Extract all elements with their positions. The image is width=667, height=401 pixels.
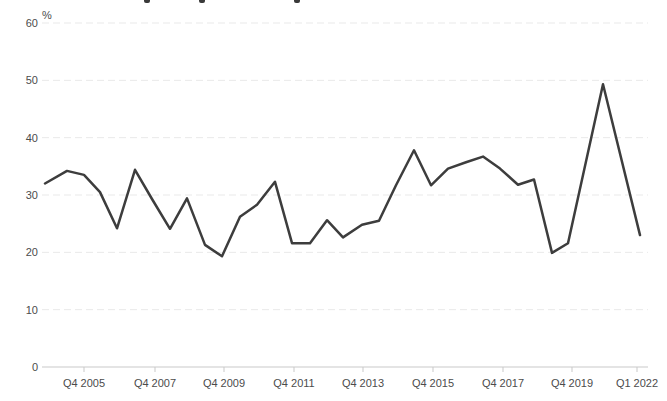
- data-series-line: [45, 84, 640, 256]
- x-axis-ticks: [84, 367, 637, 372]
- title-descender-fragment: [199, 0, 205, 3]
- y-axis-tick-label: 20: [26, 246, 38, 258]
- x-axis-tick-label: Q4 2011: [273, 377, 314, 389]
- title-descender-fragment: [294, 0, 300, 3]
- chart-area: 0102030405060 % Q4 2005Q4 2007Q4 2009Q4 …: [0, 0, 667, 401]
- gridlines: [42, 23, 648, 310]
- x-axis-tick-label: Q4 2013: [342, 377, 384, 389]
- x-axis-tick-label: Q4 2019: [551, 377, 593, 389]
- y-axis-tick-label: 50: [26, 74, 38, 86]
- title-descender-fragment: [144, 0, 150, 3]
- y-axis-labels: 0102030405060: [26, 17, 38, 373]
- y-axis-tick-label: 10: [26, 304, 38, 316]
- y-axis-tick-label: 30: [26, 189, 38, 201]
- x-axis-tick-label: Q4 2017: [482, 377, 524, 389]
- x-axis-tick-label: Q4 2009: [203, 377, 245, 389]
- x-axis-labels: Q4 2005Q4 2007Q4 2009Q4 2011Q4 2013Q4 20…: [63, 377, 658, 389]
- y-axis-unit-label: %: [42, 9, 52, 21]
- x-axis-tick-label: Q4 2007: [134, 377, 176, 389]
- x-axis-tick-label: Q1 2022: [616, 377, 658, 389]
- line-chart: 0102030405060 % Q4 2005Q4 2007Q4 2009Q4 …: [0, 0, 667, 401]
- x-axis-tick-label: Q4 2015: [412, 377, 454, 389]
- x-axis-tick-label: Q4 2005: [63, 377, 105, 389]
- y-axis-tick-label: 40: [26, 132, 38, 144]
- y-axis-tick-label: 60: [26, 17, 38, 29]
- y-axis-tick-label: 0: [32, 361, 38, 373]
